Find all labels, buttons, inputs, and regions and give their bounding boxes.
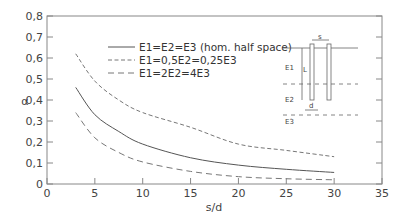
inset-label-E1: E1 bbox=[285, 64, 294, 72]
y-tick-label: 0,6 bbox=[26, 52, 44, 65]
x-tick-label: 5 bbox=[91, 187, 98, 200]
x-tick-label: 0 bbox=[44, 187, 51, 200]
inset-label-s: s bbox=[318, 33, 322, 41]
y-tick-label: 0,1 bbox=[26, 157, 44, 170]
x-tick-label: 30 bbox=[327, 187, 341, 200]
y-axis: 00,10,20,30,40,50,60,70,8 bbox=[26, 10, 383, 191]
legend-item-3: E1=2E2=4E3 bbox=[139, 67, 210, 79]
inset-label-L: L bbox=[303, 66, 307, 74]
y-tick-label: 0 bbox=[36, 178, 43, 191]
legend: E1=E2=E3 (hom. half space) E1=0,5E2=0,25… bbox=[108, 41, 292, 79]
series-line-1 bbox=[76, 87, 334, 172]
x-axis-title: s/d bbox=[206, 201, 222, 214]
x-tick-label: 20 bbox=[231, 187, 245, 200]
x-tick-label: 25 bbox=[279, 187, 293, 200]
pile-inset-diagram bbox=[283, 40, 358, 115]
x-tick-label: 15 bbox=[184, 187, 198, 200]
y-tick-label: 0,5 bbox=[26, 73, 44, 86]
x-tick-label: 10 bbox=[136, 187, 150, 200]
inset-label-d: d bbox=[309, 102, 313, 110]
legend-item-2: E1=0,5E2=0,25E3 bbox=[139, 54, 237, 66]
inset-label-E3: E3 bbox=[285, 118, 294, 126]
y-tick-label: 0,8 bbox=[26, 10, 44, 23]
chart: 00,10,20,30,40,50,60,70,8 05101520253035… bbox=[0, 0, 403, 222]
y-tick-label: 0,7 bbox=[26, 31, 44, 44]
x-axis: 05101520253035 bbox=[44, 178, 390, 200]
y-axis-title: α bbox=[21, 95, 28, 108]
legend-item-1: E1=E2=E3 (hom. half space) bbox=[139, 41, 292, 53]
inset-label-E2: E2 bbox=[285, 96, 294, 104]
x-tick-label: 35 bbox=[375, 187, 389, 200]
y-tick-label: 0,2 bbox=[26, 136, 44, 149]
y-tick-label: 0,3 bbox=[26, 115, 44, 128]
